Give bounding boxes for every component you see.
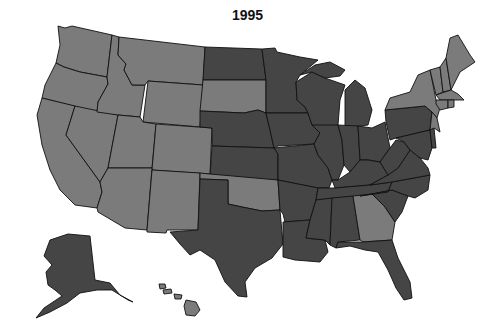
state-nd — [203, 47, 266, 80]
state-mt — [118, 37, 205, 85]
state-mi — [345, 80, 372, 128]
state-wy — [143, 81, 203, 127]
state-nj — [430, 112, 440, 132]
state-co — [152, 124, 212, 174]
state-ri — [448, 100, 454, 108]
state-ak — [36, 234, 133, 318]
state-az — [97, 168, 152, 230]
us-choropleth-map — [0, 0, 495, 333]
state-fl — [336, 240, 412, 300]
state-hi-maui — [174, 294, 182, 299]
state-hi-oahu — [163, 289, 172, 294]
state-nm — [147, 170, 200, 233]
state-hi-main — [184, 300, 200, 316]
state-me — [446, 35, 475, 90]
state-sd — [200, 80, 266, 113]
state-hi-kauai — [159, 284, 166, 289]
